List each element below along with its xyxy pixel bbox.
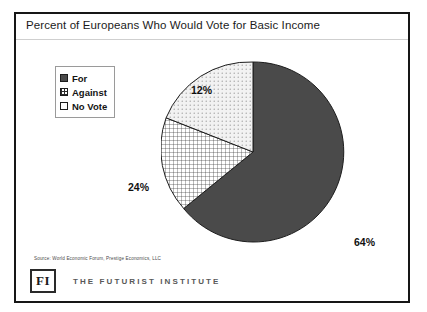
footer-branding: FI THE FUTURIST INSTITUTE bbox=[30, 269, 221, 293]
chart-plot-area: For Against No Vote bbox=[16, 40, 408, 301]
pie-value-label-no-vote: 12% bbox=[191, 84, 212, 96]
legend-label-for: For bbox=[72, 73, 87, 84]
chart-title-bar: Percent of Europeans Who Would Vote for … bbox=[16, 14, 408, 40]
crosshatch-swatch-icon bbox=[60, 88, 68, 96]
pie-value-label-against: 24% bbox=[128, 181, 149, 193]
footer-organization-name: THE FUTURIST INSTITUTE bbox=[73, 277, 221, 286]
pie-value-label-for: 64% bbox=[354, 236, 375, 248]
chart-frame: Percent of Europeans Who Would Vote for … bbox=[14, 12, 410, 303]
source-note: Source: World Economic Forum, Prestige E… bbox=[34, 256, 161, 261]
chart-legend: For Against No Vote bbox=[55, 66, 115, 118]
legend-label-against: Against bbox=[72, 87, 107, 98]
pie-chart-svg bbox=[161, 60, 345, 244]
legend-label-no-vote: No Vote bbox=[72, 101, 107, 112]
page-title: Percent of Europeans Who Would Vote for … bbox=[26, 19, 408, 31]
solid-dark-swatch-icon bbox=[60, 74, 68, 82]
legend-item-against: Against bbox=[60, 85, 109, 99]
pie-chart bbox=[161, 60, 345, 244]
futurist-institute-logo: FI bbox=[30, 269, 56, 293]
legend-item-no-vote: No Vote bbox=[60, 99, 109, 113]
legend-item-for: For bbox=[60, 71, 109, 85]
empty-swatch-icon bbox=[60, 102, 68, 110]
